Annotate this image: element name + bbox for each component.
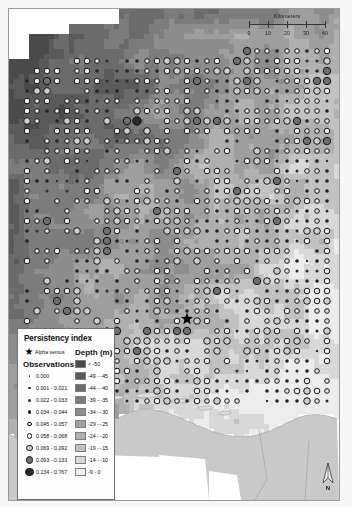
legend-observation-label: 0.034 - 0.044	[36, 409, 67, 415]
legend-depth-label: -19 - -15	[88, 445, 108, 451]
scale-bar-tick	[249, 21, 250, 28]
legend-observation-symbol	[23, 456, 36, 463]
legend-observation-label: 0.000	[36, 373, 49, 379]
legend-row: 0.022 - 0.033-39 - -35	[23, 394, 110, 406]
legend-row: 0.058 - 0.068-24 - -20	[23, 430, 110, 442]
legend-depth-swatch	[75, 432, 86, 440]
legend-row: 0.093 - 0.133-14 - -10	[23, 454, 110, 466]
legend-observation-label: 0.022 - 0.033	[36, 397, 67, 403]
scale-bar: Kilometers 010203040	[241, 13, 333, 41]
legend-observation-label: 0.069 - 0.092	[36, 445, 67, 451]
scale-bar-tick-label: 20	[284, 30, 290, 36]
legend-observation-symbol	[23, 387, 36, 389]
legend-depth-header: Depth (m)	[75, 348, 112, 357]
legend-observation-label: 0.045 - 0.057	[36, 421, 67, 427]
legend-depth-swatch	[75, 360, 86, 368]
legend-observation-symbol	[23, 445, 36, 452]
legend-observation-label: 0.058 - 0.068	[36, 433, 67, 439]
legend-observation-symbol	[23, 468, 36, 476]
legend-depth-row: < -50	[75, 360, 116, 368]
legend-depth-swatch	[75, 444, 86, 452]
map-frame: Kilometers 010203040 N Persistency index…	[8, 8, 340, 501]
legend-row: 0.045 - 0.057-29 - -25	[23, 418, 110, 430]
legend-depth-swatch	[75, 408, 86, 416]
legend-row: 0.000-49 - -45	[23, 370, 110, 382]
scale-bar-tick	[306, 21, 307, 28]
legend-depth-label: -29 - -25	[88, 421, 108, 427]
legend-row: 0.001 - 0.021-44 - -40	[23, 382, 110, 394]
map-legend: Persistency index ★ Alpha ventus Depth (…	[17, 328, 115, 500]
legend-depth-label: -14 - -10	[88, 457, 108, 463]
legend-title: Persistency index	[24, 334, 110, 343]
north-arrow: N	[317, 461, 339, 497]
legend-row: 0.134 - 0.767-9 - 0	[23, 466, 110, 478]
legend-depth-label: -9 - 0	[88, 469, 100, 475]
map-figure: Kilometers 010203040 N Persistency index…	[0, 0, 352, 507]
legend-observation-symbol	[23, 399, 36, 402]
legend-depth-swatch	[75, 384, 86, 392]
legend-depth-swatch	[75, 468, 86, 476]
legend-body: 0.000-49 - -450.001 - 0.021-44 - -400.02…	[23, 370, 110, 478]
legend-observation-label: 0.001 - 0.021	[36, 385, 67, 391]
legend-observation-symbol	[23, 410, 36, 414]
scale-bar-tick	[268, 21, 269, 28]
legend-site-label: Alpha ventus	[35, 349, 64, 355]
legend-depth-label: -44 - -40	[88, 385, 108, 391]
legend-observation-label: 0.134 - 0.767	[36, 469, 67, 475]
scale-bar-tick-label: 0	[248, 30, 251, 36]
legend-row: 0.034 - 0.044-34 - -30	[23, 406, 110, 418]
legend-depth-label: -39 - -35	[88, 397, 108, 403]
scale-bar-tick	[325, 21, 326, 28]
legend-row: 0.069 - 0.092-19 - -15	[23, 442, 110, 454]
legend-depth-swatch	[75, 420, 86, 428]
legend-depth-swatch	[75, 456, 86, 464]
scale-bar-tick	[287, 21, 288, 28]
legend-site-row: ★ Alpha ventus Depth (m)	[23, 346, 110, 358]
scale-bar-tick-label: 40	[322, 30, 328, 36]
star-icon: ★	[23, 347, 35, 357]
legend-observation-symbol	[23, 375, 36, 377]
legend-observation-symbol	[23, 422, 36, 427]
north-arrow-icon	[317, 461, 339, 485]
legend-observations-header-row: Observations < -50	[23, 358, 110, 370]
legend-depth-label: -24 - -20	[88, 433, 108, 439]
legend-observation-symbol	[23, 433, 36, 439]
scale-bar-unit-label: Kilometers	[241, 13, 333, 19]
legend-depth-label: -34 - -30	[88, 409, 108, 415]
scale-bar-tick-label: 30	[303, 30, 309, 36]
legend-depth-label: -49 - -45	[88, 373, 108, 379]
legend-observations-header: Observations	[23, 360, 74, 369]
legend-observation-label: 0.093 - 0.133	[36, 457, 67, 463]
scale-bar-tick-label: 10	[265, 30, 271, 36]
legend-depth-label: < -50	[88, 361, 100, 367]
legend-depth-swatch	[75, 372, 86, 380]
north-arrow-label: N	[317, 485, 339, 491]
legend-depth-swatch	[75, 396, 86, 404]
